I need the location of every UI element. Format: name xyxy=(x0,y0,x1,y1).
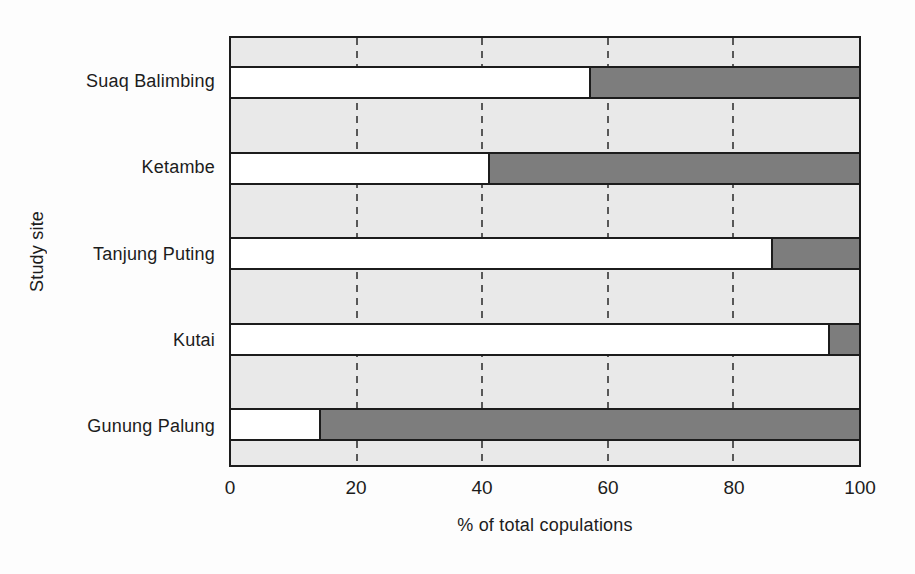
x-axis-title: % of total copulations xyxy=(229,515,861,536)
category-label-4: Gunung Palung xyxy=(87,416,215,437)
bar-segment-white-segment-4 xyxy=(231,410,319,439)
bar-segment-white-segment-2 xyxy=(231,239,771,268)
plot-area xyxy=(229,36,861,467)
x-tick-label-40: 40 xyxy=(471,477,492,499)
bar-segment-dark-grey-segment-4 xyxy=(319,410,859,439)
bar-segment-white-segment-1 xyxy=(231,154,488,183)
bar-suaq-balimbing xyxy=(229,66,861,99)
x-tick-label-20: 20 xyxy=(345,477,366,499)
y-axis-title: Study site xyxy=(27,36,51,467)
bar-segment-dark-grey-segment-0 xyxy=(589,68,859,97)
category-label-3: Kutai xyxy=(173,329,215,350)
bar-segment-dark-grey-segment-1 xyxy=(488,154,859,183)
x-tick-label-0: 0 xyxy=(225,477,236,499)
bar-segment-white-segment-3 xyxy=(231,325,828,354)
bar-segment-dark-grey-segment-2 xyxy=(771,239,859,268)
category-label-0: Suaq Balimbing xyxy=(86,71,215,92)
bar-ketambe xyxy=(229,152,861,185)
category-label-1: Ketambe xyxy=(142,157,215,178)
bar-kutai xyxy=(229,323,861,356)
x-tick-label-80: 80 xyxy=(723,477,744,499)
figure: { "figure": { "background": "#fdfdfd", "… xyxy=(0,0,915,574)
category-label-2: Tanjung Puting xyxy=(93,243,215,264)
x-tick-label-100: 100 xyxy=(844,477,876,499)
bar-gunung-palung xyxy=(229,408,861,441)
bar-tanjung-puting xyxy=(229,237,861,270)
x-tick-label-60: 60 xyxy=(597,477,618,499)
bar-segment-dark-grey-segment-3 xyxy=(828,325,859,354)
bar-segment-white-segment-0 xyxy=(231,68,589,97)
